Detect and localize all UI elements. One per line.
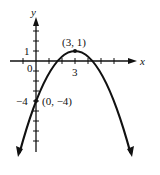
y-axis-label: y: [30, 6, 36, 18]
vertex-annotation: (3, 1): [62, 36, 86, 49]
y-tick-label-1: 1: [24, 45, 30, 57]
x-axis-label: x: [139, 55, 145, 67]
vertex-point: [73, 49, 77, 53]
x-axis-arrow-icon: [128, 58, 137, 64]
x-tick-label-3: 3: [72, 66, 78, 78]
intercept-annotation: (0, −4): [42, 95, 72, 108]
y-tick-label-neg4: −4: [16, 95, 28, 107]
parabola-graph: y x 0 3 1 −4 (3, 1) (0, −4): [0, 0, 160, 175]
origin-label: 0: [27, 62, 33, 74]
intercept-point: [34, 99, 38, 103]
y-axis-arrow-icon: [33, 17, 39, 26]
